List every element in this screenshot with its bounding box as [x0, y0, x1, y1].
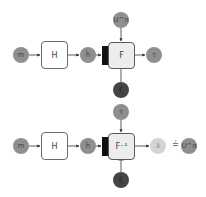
target-node-u-pi: U^π: [181, 138, 197, 154]
output-node-x-hat: x̂: [150, 138, 166, 154]
node-label: U^π: [181, 142, 196, 150]
node-label: ĥ: [86, 51, 90, 59]
box-label: H: [51, 51, 57, 60]
node-label: U^π: [113, 16, 128, 24]
encoder-box-h: H: [41, 41, 68, 69]
node-label: x̂: [156, 142, 160, 150]
hidden-node-h-hat: ĥ: [80, 47, 96, 63]
noise-node-xi: ξ: [113, 82, 129, 98]
box-label: H: [51, 142, 57, 151]
node-label: ξ: [119, 86, 123, 94]
box-label: F: [119, 51, 124, 60]
key-node-u-pi: U^π: [113, 12, 129, 28]
node-label: ĥ: [86, 142, 90, 150]
function-box-f: F: [108, 42, 135, 69]
box-label: F⁻¹: [115, 142, 127, 151]
input-node-m: m: [13, 47, 29, 63]
key-node-tau: τ: [113, 104, 129, 120]
input-node-m-2: m: [13, 138, 29, 154]
hidden-node-h-hat-2: ĥ: [80, 138, 96, 154]
noise-node-xi-2: ξ: [113, 172, 129, 188]
output-node-tau: τ: [146, 47, 162, 63]
node-label: m: [18, 51, 25, 59]
node-label: τ: [152, 51, 156, 59]
function-box-f-inverse: F⁻¹: [108, 133, 135, 160]
node-label: τ: [119, 108, 123, 116]
node-label: m: [18, 142, 25, 150]
compare-symbol: ≟: [172, 140, 179, 149]
encoder-box-h-2: H: [41, 132, 68, 160]
edges: [0, 0, 206, 197]
node-label: ξ: [119, 176, 123, 184]
